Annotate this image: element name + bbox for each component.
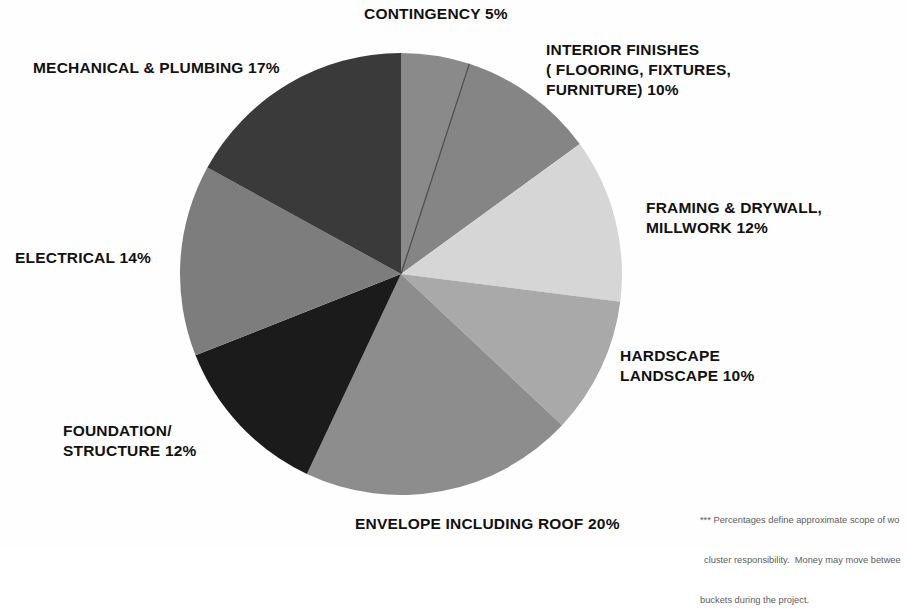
slice-label-envelope-including-roof: ENVELOPE INCLUDING ROOF 20% [355, 514, 685, 534]
slice-label-electrical: ELECTRICAL 14% [15, 248, 245, 268]
slice-label-foundation-structure: FOUNDATION/ STRUCTURE 12% [63, 421, 293, 461]
slice-label-framing-drywall-millwork: FRAMING & DRYWALL, MILLWORK 12% [646, 198, 896, 238]
slice-label-interior-finishes: INTERIOR FINISHES ( FLOORING, FIXTURES, … [546, 40, 846, 100]
footnote-line-2: cluster responsibility. Money may move b… [700, 554, 907, 567]
footnote-line-1: *** Percentages define approximate scope… [700, 514, 907, 527]
footnote-note: *** Percentages define approximate scope… [700, 487, 907, 609]
slice-label-contingency: CONTINGENCY 5% [364, 4, 594, 24]
slice-label-mechanical-plumbing: MECHANICAL & PLUMBING 17% [33, 58, 333, 78]
slice-label-hardscape-landscape: HARDSCAPE LANDSCAPE 10% [620, 346, 870, 386]
footnote-line-3: buckets during the project. [700, 594, 907, 607]
